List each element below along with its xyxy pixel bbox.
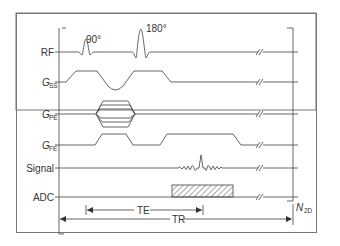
pulse-sequence-diagram: 90° 180° — [0, 0, 340, 246]
row-labels: RF G SS G PE G FE Signal ADC N 2D — [26, 47, 312, 215]
tr-arrow-left-icon — [60, 216, 66, 222]
te-arrow-right-icon — [196, 207, 202, 213]
te-arrow-left-icon — [87, 207, 93, 213]
rf-180-label: 180° — [146, 23, 167, 34]
signal-echo-waveform — [59, 155, 258, 171]
repeat-label-subscript: 2D — [304, 207, 313, 214]
gfe-label-subscript: FE — [49, 145, 58, 152]
right-axis-bracket-top — [287, 28, 293, 201]
rf-label: RF — [41, 47, 54, 58]
te-label: TE — [137, 205, 150, 216]
gss-waveform — [59, 71, 258, 90]
gfe-waveform — [59, 134, 258, 145]
adc-readout-window — [172, 185, 233, 197]
phase-encoding-table — [96, 101, 135, 127]
diagram-frame — [17, 14, 317, 233]
te-interval: TE — [86, 205, 203, 216]
rf-90-label: 90° — [86, 34, 101, 45]
left-axis-bracket — [59, 28, 66, 234]
tr-label: TR — [172, 214, 185, 225]
adc-label: ADC — [33, 192, 54, 203]
gfe-row — [55, 134, 298, 148]
gss-label-subscript: SS — [49, 82, 58, 89]
gss-row — [55, 71, 298, 90]
tr-arrow-right-icon — [286, 216, 292, 222]
repeat-label: N — [296, 202, 304, 213]
rf-row: 90° 180° — [55, 23, 298, 58]
adc-row — [55, 185, 298, 200]
gpe-row — [55, 101, 298, 127]
signal-row — [55, 155, 298, 171]
gpe-label-subscript: PE — [49, 114, 58, 121]
tr-interval: TR — [60, 204, 293, 225]
signal-label: Signal — [26, 163, 54, 174]
